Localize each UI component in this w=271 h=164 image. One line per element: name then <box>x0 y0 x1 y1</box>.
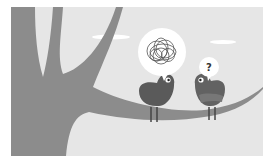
birds-on-branch-illustration: ? <box>11 7 263 156</box>
cloud-icon <box>210 40 236 44</box>
question-mark-icon: ? <box>206 62 212 73</box>
illustration-frame: ? <box>11 7 263 156</box>
